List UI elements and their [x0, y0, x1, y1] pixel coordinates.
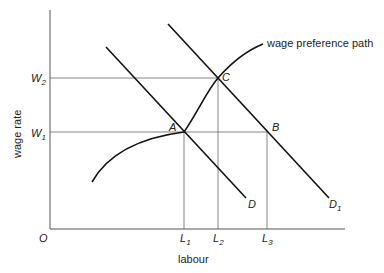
x-axis-label: labour	[178, 253, 209, 265]
demand-d1-label: D1	[329, 198, 341, 213]
point-b-label: B	[272, 121, 279, 133]
wage-preference-path	[92, 44, 263, 182]
wage-preference-path-label: wage preference path	[266, 37, 373, 49]
point-a-label: A	[168, 121, 176, 133]
point-c-label: C	[222, 71, 230, 83]
x-tick-l3: L3	[262, 232, 273, 247]
y-tick-w2: W2	[31, 72, 46, 87]
labour-market-diagram: labour wage rate O W2 W1 L1 L2 L3 A C B …	[0, 0, 384, 273]
demand-curve-d1	[168, 24, 329, 198]
y-tick-w1: W1	[31, 127, 46, 142]
demand-d-label: D	[248, 198, 256, 210]
y-axis-label: wage rate	[11, 110, 23, 159]
origin-label: O	[39, 232, 48, 244]
x-tick-l2: L2	[213, 232, 224, 247]
x-tick-l1: L1	[180, 232, 191, 247]
